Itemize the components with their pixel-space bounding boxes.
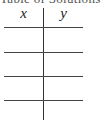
cropped-title: Table of Solutions: [0, 0, 106, 3]
column-header-y: y: [44, 5, 83, 22]
column-divider: [43, 8, 44, 120]
column-header-x: x: [4, 5, 43, 22]
row-rule: [4, 100, 83, 101]
row-rule: [4, 76, 83, 77]
row-rule: [4, 52, 83, 53]
header-rule: [4, 27, 83, 28]
